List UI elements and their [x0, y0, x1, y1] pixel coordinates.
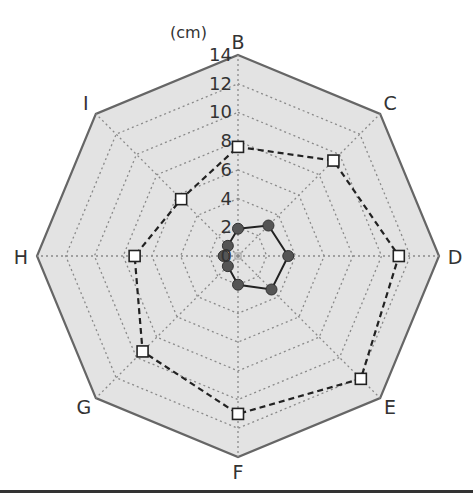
- data-point-circle: [263, 220, 274, 231]
- category-label-g: G: [77, 396, 92, 418]
- radar-chart: 02468101214 BCDEFGHI (cm): [0, 0, 473, 495]
- bottom-rule: [0, 490, 473, 493]
- category-label-f: F: [233, 461, 244, 483]
- data-point-square: [233, 408, 244, 419]
- radial-tick-label: 12: [209, 73, 232, 94]
- radial-tick-label: 6: [221, 159, 232, 180]
- radial-tick-label: 10: [209, 101, 232, 122]
- category-label-e: E: [384, 396, 396, 418]
- unit-label: (cm): [170, 23, 207, 42]
- data-point-circle: [283, 251, 294, 262]
- data-point-square: [328, 155, 339, 166]
- radial-tick-label: 8: [221, 130, 232, 151]
- data-point-square: [129, 251, 140, 262]
- category-label-c: C: [383, 92, 396, 114]
- data-point-square: [176, 194, 187, 205]
- data-point-square: [393, 251, 404, 262]
- data-point-circle: [266, 284, 277, 295]
- radial-tick-label: 14: [209, 44, 232, 65]
- radial-tick-label: 2: [221, 216, 232, 237]
- category-label-i: I: [83, 92, 89, 114]
- data-point-square: [137, 346, 148, 357]
- radial-tick-label: 4: [221, 188, 232, 209]
- radial-tick-label: 0: [221, 245, 232, 266]
- category-label-b: B: [231, 31, 244, 53]
- data-point-square: [233, 141, 244, 152]
- category-label-d: D: [448, 246, 463, 268]
- data-point-circle: [233, 223, 244, 234]
- category-label-h: H: [14, 246, 28, 268]
- data-point-square: [355, 373, 366, 384]
- data-point-circle: [233, 279, 244, 290]
